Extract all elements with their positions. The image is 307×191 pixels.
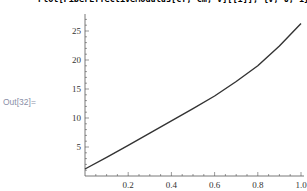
x-tick-label: 0.8 — [252, 180, 264, 190]
x-tick-label: 0.4 — [166, 180, 178, 190]
y-tick-label: 20 — [72, 55, 82, 65]
x-tick-label: 1.0 — [295, 180, 307, 190]
y-tick-label: 15 — [72, 84, 82, 94]
x-tick-label: 0.6 — [209, 180, 221, 190]
plot-curve — [85, 24, 301, 170]
plot-graphic[interactable]: 5101520250.20.40.60.81.0 — [0, 0, 307, 191]
x-tick-label: 0.2 — [123, 180, 134, 190]
y-tick-label: 25 — [72, 26, 82, 36]
y-tick-label: 5 — [77, 142, 82, 152]
y-tick-label: 10 — [72, 113, 82, 123]
